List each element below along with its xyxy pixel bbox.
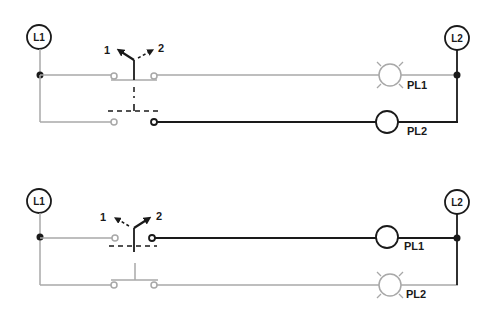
l2-terminal: L2	[445, 26, 469, 50]
position-1-label: 1	[104, 44, 110, 56]
contact-2b	[151, 282, 157, 288]
l2-junction-dot	[454, 235, 461, 242]
contact-2a	[111, 282, 117, 288]
l2-junction-dot	[454, 72, 461, 79]
pl2-label: PL2	[407, 125, 427, 137]
l2-terminal: L2	[445, 190, 469, 214]
diagram-position-1: L1 1 2	[27, 25, 469, 137]
contact-2b	[151, 119, 157, 125]
l1-label: L1	[33, 32, 45, 43]
contact-2a	[111, 119, 117, 125]
contact-1b	[151, 73, 157, 79]
pl1-label: PL1	[404, 240, 424, 252]
position-2-label: 2	[156, 210, 162, 222]
selector-switch-diagram: L1 1 2	[0, 0, 496, 318]
l1-junction-dot	[37, 234, 44, 241]
l1-terminal: L1	[27, 189, 51, 213]
pilot-lamp-pl1-lit: PL1	[377, 62, 427, 91]
l2-label: L2	[451, 197, 463, 208]
position-2-label: 2	[158, 42, 164, 54]
pl1-label: PL1	[407, 79, 427, 91]
diagram-position-2: L1 1 2 PL1	[27, 189, 469, 300]
contact-1a	[111, 73, 117, 79]
pilot-lamp-pl2-lit: PL2	[377, 272, 426, 300]
schematic-canvas: L1 1 2	[0, 0, 496, 318]
position-1-arrow-icon	[120, 51, 134, 60]
position-2-arrow-icon	[134, 219, 148, 228]
position-1-label: 1	[100, 211, 106, 223]
l1-label: L1	[33, 196, 45, 207]
pl2-label: PL2	[406, 288, 426, 300]
position-2-arrow-icon	[138, 51, 151, 58]
contact-1b	[149, 235, 155, 241]
pilot-lamp-pl2-off: PL2	[376, 111, 427, 137]
l2-label: L2	[451, 33, 463, 44]
contact-1a	[112, 235, 118, 241]
pilot-lamp-pl1-off: PL1	[376, 226, 424, 252]
position-1-arrow-icon	[117, 219, 129, 226]
l1-terminal: L1	[27, 25, 51, 49]
